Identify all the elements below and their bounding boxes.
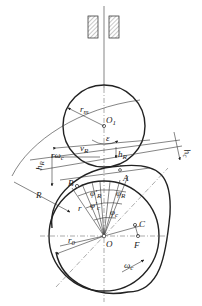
guide-bearing [88, 16, 119, 38]
label-hR-right: hR [118, 149, 128, 161]
point-B [75, 184, 78, 187]
label-C: C [139, 219, 146, 229]
label-rm: rm [80, 104, 89, 116]
label-hc: hc [180, 149, 193, 159]
label-hR-left: hR [34, 161, 46, 171]
label-R: R [35, 190, 42, 200]
arc-R [12, 100, 140, 176]
hc-dimension [174, 132, 180, 160]
label-F: F [133, 240, 140, 250]
label-O1: O1 [106, 115, 116, 127]
label-A: A [122, 173, 129, 183]
label-r: r [78, 203, 82, 213]
label-r-omega-c: rωc [51, 150, 65, 162]
label-phi-c-prime: φ'c [90, 200, 101, 212]
point-A [119, 169, 122, 172]
label-O: O [106, 239, 113, 249]
R-dimension [14, 182, 70, 212]
label-B: B [68, 178, 74, 188]
point-O [102, 234, 106, 238]
label-r0: r0 [68, 235, 76, 247]
label-epsilon: ε [106, 133, 110, 143]
cam-mechanism-diagram: rm O1 vR hR ε rωc hR R hc B A φ'R φR φ'c… [0, 0, 202, 306]
label-phi-R: φR [116, 188, 126, 200]
tangent-lines [30, 140, 182, 180]
